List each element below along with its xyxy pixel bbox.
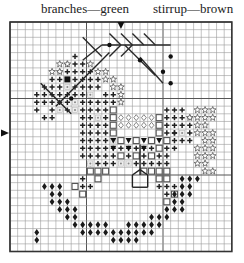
star-stitch-icon — [209, 145, 216, 151]
dot-icon — [89, 94, 91, 96]
plus-stitch-icon — [180, 115, 185, 120]
plus-stitch-icon — [111, 100, 116, 105]
filled-diamond-stitch-icon — [57, 206, 62, 213]
star-stitch-icon — [202, 137, 209, 143]
plus-stitch-icon — [126, 153, 131, 158]
french-knot-icon — [161, 70, 165, 74]
dot-icon — [74, 101, 76, 103]
filled-diamond-stitch-icon — [50, 183, 55, 190]
plus-stitch-icon — [34, 107, 39, 112]
plus-stitch-icon — [157, 184, 162, 189]
plus-stitch-icon — [80, 153, 85, 158]
plus-stitch-icon — [164, 107, 169, 112]
open-square-stitch-icon — [164, 168, 170, 174]
filled-diamond-stitch-icon — [180, 183, 185, 190]
star-stitch-icon — [194, 106, 201, 112]
plus-stitch-icon — [49, 107, 54, 112]
star-stitch-icon — [118, 84, 125, 90]
plus-stitch-icon — [80, 138, 85, 143]
plus-stitch-icon — [80, 84, 85, 89]
dot-icon — [59, 109, 61, 111]
filled-square-stitch-icon — [64, 76, 70, 82]
plus-stitch-icon — [88, 184, 93, 189]
plus-stitch-icon — [65, 100, 70, 105]
plus-stitch-icon — [172, 115, 177, 120]
plus-stitch-icon — [88, 100, 93, 105]
filled-diamond-stitch-icon — [141, 229, 146, 236]
plus-stitch-icon — [88, 107, 93, 112]
branch-backstitch-line — [140, 57, 163, 83]
filled-diamond-stitch-icon — [134, 237, 139, 244]
star-stitch-icon — [102, 68, 109, 74]
filled-diamond-stitch-icon — [195, 175, 200, 182]
plus-stitch-icon — [103, 107, 108, 112]
dot-icon — [128, 163, 130, 165]
plus-stitch-icon — [187, 130, 192, 135]
star-stitch-icon — [202, 129, 209, 135]
star-stitch-icon — [202, 145, 209, 151]
open-square-stitch-icon — [118, 153, 124, 159]
plus-stitch-icon — [111, 161, 116, 166]
filled-diamond-stitch-icon — [42, 183, 47, 190]
plus-stitch-icon — [95, 107, 100, 112]
open-square-stitch-icon — [156, 168, 162, 174]
star-stitch-icon — [209, 129, 216, 135]
filled-diamond-stitch-icon — [73, 206, 78, 213]
star-stitch-icon — [102, 76, 109, 82]
open-square-stitch-icon — [133, 138, 139, 144]
open-square-stitch-icon — [156, 122, 162, 128]
plus-stitch-icon — [95, 130, 100, 135]
triangle-stitch-icon — [156, 138, 162, 144]
dot-icon — [120, 163, 122, 165]
filled-diamond-stitch-icon — [34, 229, 39, 236]
plus-stitch-icon — [164, 146, 169, 151]
plus-stitch-icon — [187, 123, 192, 128]
open-square-stitch-icon — [87, 168, 93, 174]
french-knot-icon — [107, 43, 111, 47]
open-square-stitch-icon — [110, 115, 116, 121]
open-square-stitch-icon — [149, 153, 155, 159]
plus-stitch-icon — [88, 146, 93, 151]
branch-backstitch-line — [132, 33, 143, 44]
star-stitch-icon — [87, 61, 94, 67]
plus-stitch-icon — [172, 146, 177, 151]
open-square-stitch-icon — [156, 145, 162, 151]
plus-stitch-icon — [49, 115, 54, 120]
filled-diamond-stitch-icon — [88, 229, 93, 236]
plus-stitch-icon — [103, 130, 108, 135]
hollow-diamond-stitch-icon — [119, 122, 124, 128]
star-stitch-icon — [64, 61, 71, 67]
french-knot-icon — [168, 54, 172, 58]
plus-stitch-icon — [95, 146, 100, 151]
plus-stitch-icon — [34, 92, 39, 97]
filled-diamond-stitch-icon — [172, 198, 177, 205]
hollow-diamond-stitch-icon — [134, 122, 139, 128]
plus-stitch-icon — [164, 130, 169, 135]
branch-backstitch-line — [144, 33, 155, 44]
open-square-stitch-icon — [103, 168, 109, 174]
plus-stitch-icon — [57, 92, 62, 97]
dot-icon — [89, 163, 91, 165]
filled-diamond-stitch-icon — [65, 206, 70, 213]
plus-stitch-icon — [80, 61, 85, 66]
plus-stitch-icon — [95, 100, 100, 105]
plus-stitch-icon — [157, 161, 162, 166]
open-square-stitch-icon — [80, 191, 86, 197]
star-stitch-icon — [49, 68, 56, 74]
filled-diamond-stitch-icon — [187, 175, 192, 182]
filled-diamond-stitch-icon — [180, 191, 185, 198]
plus-stitch-icon — [72, 92, 77, 97]
plus-stitch-icon — [164, 153, 169, 158]
branch-backstitch-line — [109, 33, 120, 44]
cross-stitch-chart — [0, 0, 244, 263]
plus-stitch-icon — [72, 77, 77, 82]
filled-diamond-stitch-icon — [149, 221, 154, 228]
star-stitch-icon — [202, 160, 209, 166]
star-stitch-icon — [186, 114, 193, 120]
plus-stitch-icon — [141, 153, 146, 158]
star-stitch-icon — [209, 152, 216, 158]
open-square-stitch-icon — [156, 176, 162, 182]
open-square-stitch-icon — [149, 138, 155, 144]
plus-stitch-icon — [164, 161, 169, 166]
filled-diamond-stitch-icon — [134, 221, 139, 228]
